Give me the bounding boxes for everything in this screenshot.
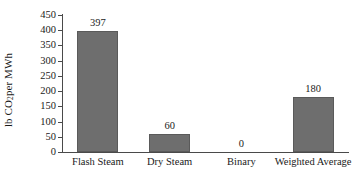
y-axis-tick-label: 450: [40, 10, 56, 21]
y-axis-tick-label: 150: [40, 101, 56, 112]
y-axis-tick-mark: [58, 106, 62, 107]
y-axis-title: lb CO2 per MWh: [0, 0, 16, 180]
y-axis-spine: [62, 14, 63, 153]
bar-value-label: 60: [164, 121, 175, 132]
y-axis-tick-label: 200: [40, 86, 56, 97]
y-axis-tick-mark: [58, 76, 62, 77]
y-axis-tick-label: 350: [40, 40, 56, 51]
y-axis-title-suffix: per MWh: [2, 53, 14, 96]
y-axis-tick-mark: [58, 15, 62, 16]
y-axis-tick-mark: [58, 137, 62, 138]
y-axis-tick-label: 400: [40, 25, 56, 36]
bar: [293, 97, 334, 152]
plot-area: 050100150200250300350400450 397600180 Fl…: [62, 15, 349, 152]
bar-value-label: 0: [239, 139, 244, 150]
x-axis-tick-label: Flash Steam: [72, 157, 124, 168]
y-axis-title-subscript: 2: [6, 96, 15, 100]
bar-value-label: 180: [305, 84, 321, 95]
y-axis-tick-mark: [58, 122, 62, 123]
x-axis-tick-label: Dry Steam: [147, 157, 192, 168]
bar: [77, 31, 118, 152]
x-axis-tick-label: Weighted Average: [275, 157, 352, 168]
bar-value-label: 397: [90, 18, 106, 29]
y-axis-tick-mark: [58, 152, 62, 153]
y-axis-tick-label: 50: [46, 132, 57, 143]
y-axis-tick-label: 0: [51, 147, 56, 158]
y-axis-tick-label: 100: [40, 116, 56, 127]
bar-chart-figure: lb CO2 per MWh 0501001502002503003504004…: [0, 0, 360, 180]
y-axis-tick-label: 250: [40, 71, 56, 82]
x-axis-tick-label: Binary: [227, 157, 256, 168]
y-axis-tick-mark: [58, 61, 62, 62]
bar: [149, 134, 190, 152]
y-axis-tick-mark: [58, 30, 62, 31]
x-axis-spine: [62, 152, 349, 153]
y-axis-tick-mark: [58, 45, 62, 46]
y-axis-tick-mark: [58, 91, 62, 92]
y-axis-title-prefix: lb CO: [2, 100, 14, 127]
y-axis-tick-label: 300: [40, 55, 56, 66]
